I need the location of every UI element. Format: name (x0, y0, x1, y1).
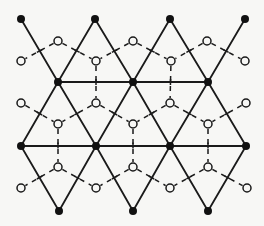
lattice-bond (21, 19, 58, 82)
lattice-bond (133, 146, 170, 211)
open-site-node (17, 57, 25, 65)
lattice-bond (133, 19, 170, 82)
filled-site-node (54, 78, 62, 86)
open-sites (17, 37, 251, 192)
filled-site-node (55, 207, 63, 215)
filled-site-node (91, 15, 99, 23)
lattice-bond (170, 19, 208, 82)
filled-site-node (129, 78, 137, 86)
open-site-node (129, 120, 137, 128)
open-site-node (129, 37, 137, 45)
open-site-node (54, 37, 62, 45)
open-site-node (242, 99, 250, 107)
filled-site-node (242, 142, 250, 150)
open-site-node (166, 99, 174, 107)
open-site-node (166, 184, 174, 192)
open-site-node (92, 184, 100, 192)
filled-site-node (166, 15, 174, 23)
open-site-node (203, 37, 211, 45)
lattice-bond (208, 82, 246, 146)
open-site-node (17, 184, 25, 192)
filled-site-node (204, 78, 212, 86)
open-site-node (241, 57, 249, 65)
lattice-bond (208, 146, 246, 211)
open-site-node (54, 120, 62, 128)
lattice-bond (133, 82, 170, 146)
lattice-bond (21, 82, 58, 146)
filled-site-node (204, 207, 212, 215)
open-site-node (92, 57, 100, 65)
open-site-node (129, 163, 137, 171)
triangular-honeycomb-lattice-diagram (0, 0, 264, 226)
filled-site-node (166, 142, 174, 150)
open-site-node (54, 163, 62, 171)
open-site-node (204, 163, 212, 171)
lattice-bond (58, 19, 95, 82)
filled-site-node (92, 142, 100, 150)
lattice-bond (96, 146, 133, 211)
lattice-bond (96, 82, 133, 146)
open-site-node (167, 57, 175, 65)
open-site-node (204, 120, 212, 128)
open-site-node (243, 184, 251, 192)
filled-site-node (17, 142, 25, 150)
lattice-bond (59, 146, 96, 211)
lattice-bond (208, 19, 245, 82)
lattice-bond (95, 19, 133, 82)
lattice-bond (21, 146, 59, 211)
triangular-lattice-bonds (21, 19, 246, 211)
lattice-bond (170, 82, 208, 146)
open-site-node (92, 99, 100, 107)
filled-site-node (17, 15, 25, 23)
open-site-node (17, 99, 25, 107)
lattice-bond (170, 146, 208, 211)
filled-site-node (241, 15, 249, 23)
filled-site-node (129, 207, 137, 215)
lattice-bond (58, 82, 96, 146)
